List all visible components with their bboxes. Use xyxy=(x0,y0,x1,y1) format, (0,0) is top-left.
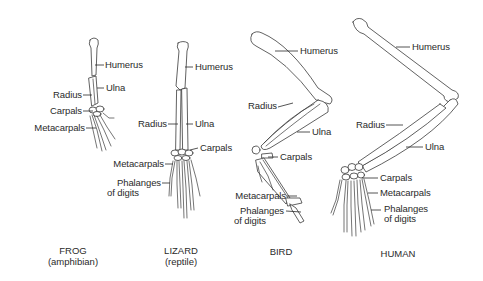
human-radius-label: Radius xyxy=(345,120,385,130)
frog-radius-label: Radius xyxy=(45,90,82,100)
frog-ulna-label: Ulna xyxy=(106,83,125,93)
lizard-of-digits-label: of digits xyxy=(107,188,139,198)
lizard-ulna-label: Ulna xyxy=(195,119,214,129)
human-caption: HUMAN xyxy=(358,248,438,259)
bone-drawings xyxy=(0,0,483,281)
frog-metacarpals-label: Metacarpals xyxy=(20,123,85,133)
lizard-metacarpals-label: Metacarpals xyxy=(98,159,164,169)
frog-forelimb xyxy=(83,38,115,151)
human-metacarpals-label: Metacarpals xyxy=(380,188,431,198)
bird-ulna-label: Ulna xyxy=(312,127,331,137)
bird-metacarpals-label: Metacarpals xyxy=(220,191,286,201)
human-humerus-label: Humerus xyxy=(412,42,450,52)
bird-caption: BIRD xyxy=(241,246,321,257)
frog-class: (amphibian) xyxy=(33,256,113,267)
frog-caption: FROG (amphibian) xyxy=(33,245,113,267)
human-of-digits-label: of digits xyxy=(384,214,416,224)
frog-carpals-label: Carpals xyxy=(40,106,82,116)
frog-humerus-label: Humerus xyxy=(105,60,143,70)
lizard-caption: LIZARD (reptile) xyxy=(141,245,221,267)
human-carpals-label: Carpals xyxy=(380,173,412,183)
human-name: HUMAN xyxy=(358,248,438,259)
bird-carpals-label: Carpals xyxy=(280,152,312,162)
lizard-carpals-label: Carpals xyxy=(200,143,232,153)
human-ulna-label: Ulna xyxy=(425,142,444,152)
bird-name: BIRD xyxy=(241,246,321,257)
lizard-radius-label: Radius xyxy=(130,119,167,129)
lizard-name: LIZARD xyxy=(141,245,221,256)
lizard-humerus-label: Humerus xyxy=(195,62,233,72)
frog-name: FROG xyxy=(33,245,113,256)
forelimb-diagram: Humerus Ulna Radius Carpals Metacarpals … xyxy=(0,0,483,281)
bird-humerus-label: Humerus xyxy=(300,46,338,56)
bird-radius-label: Radius xyxy=(238,101,277,111)
bird-of-digits-label: of digits xyxy=(234,216,266,226)
lizard-class: (reptile) xyxy=(141,256,221,267)
